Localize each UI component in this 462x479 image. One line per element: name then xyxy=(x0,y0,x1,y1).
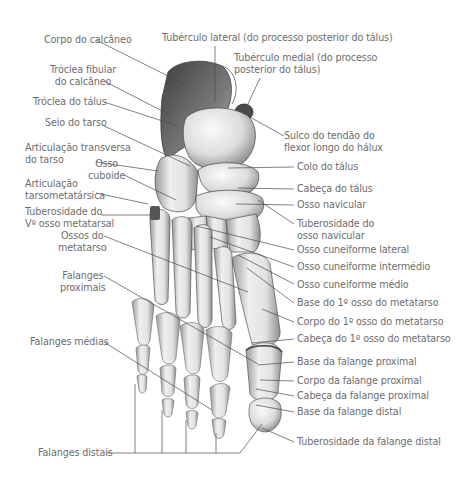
toe-5-phalanges xyxy=(132,299,154,393)
label-corpo-1-metatarso: Corpo do 1º osso do metatarso xyxy=(297,316,443,328)
label-troclea-do-talus: Tróclea do tálus xyxy=(33,96,107,108)
label-colo-do-talus: Colo do tálus xyxy=(297,161,358,173)
label-cabeca-1-metatarso: Cabeça do 1º osso do metatarso xyxy=(297,333,451,345)
label-sulco-do-tendao: Sulco do tendão do flexor longo do hálux xyxy=(284,130,383,154)
label-cabeca-falange-proximal: Cabeça da falange proximal xyxy=(297,390,429,402)
label-tuberculo-medial: Tubérculo medial (do processo posterior … xyxy=(234,52,377,76)
label-cuneiforme-intermedio: Osso cuneiforme intermédio xyxy=(297,261,430,273)
label-cuneiforme-lateral: Osso cuneiforme lateral xyxy=(297,244,409,256)
label-cuneiforme-medio: Osso cuneiforme médio xyxy=(297,279,409,291)
label-tuberosidade-v-metatarsal: Tuberosidade do Vº osso metatarsal xyxy=(25,206,114,230)
hallux-phalanges xyxy=(246,343,282,432)
label-tuberculo-lateral: Tubérculo lateral (do processo posterior… xyxy=(162,32,393,44)
anatomy-diagram: Corpo do calcâneo Tróclea fibular do cal… xyxy=(0,0,462,479)
label-corpo-falange-proximal: Corpo da falange proximal xyxy=(297,375,422,387)
label-troclea-fibular: Tróclea fibular do calcâneo xyxy=(50,64,116,88)
label-falanges-distais: Falanges distais xyxy=(38,447,113,459)
label-tuberosidade-navicular: Tuberosidade do osso navicular xyxy=(297,218,374,242)
label-osso-navicular: Osso navicular xyxy=(297,199,366,211)
label-seio-do-tarso: Seio do tarso xyxy=(45,117,107,129)
toe-3-phalanges xyxy=(180,323,204,429)
cuboid-bone xyxy=(155,155,198,212)
label-tuberosidade-falange-distal: Tuberosidade da falange distal xyxy=(297,436,441,448)
label-base-1-metatarso: Base do 1º osso do metatarso xyxy=(297,297,438,309)
label-falanges-proximais: Falanges proximais xyxy=(60,270,106,294)
label-articulacao-tarsometatarsica: Articulação tarsometatársica xyxy=(25,178,105,202)
label-base-falange-proximal: Base da falange proximal xyxy=(297,356,417,368)
label-corpo-do-calcaneo: Corpo do calcâneo xyxy=(44,34,132,46)
label-cabeca-do-talus: Cabeça do tálus xyxy=(297,183,373,195)
toe-2-phalanges xyxy=(206,327,232,439)
toe-4-phalanges xyxy=(156,313,180,417)
label-ossos-do-metatarso: Ossos do metatarso xyxy=(58,230,106,254)
label-falanges-medias: Falanges médias xyxy=(30,336,109,348)
label-base-falange-distal: Base da falange distal xyxy=(297,406,401,418)
